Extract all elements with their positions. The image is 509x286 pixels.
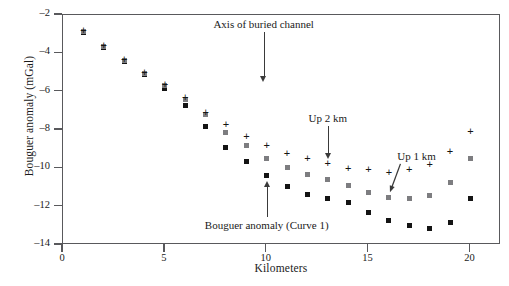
y-tick-label: –4 — [40, 45, 51, 56]
x-tick-mark — [265, 244, 266, 252]
y-tick-mark — [54, 205, 62, 206]
x-tick-mark — [469, 244, 470, 252]
y-tick-label: –6 — [40, 84, 51, 95]
x-tick-label: 20 — [457, 252, 481, 263]
x-tick-mark — [163, 244, 164, 252]
x-tick-label: 10 — [254, 252, 278, 263]
y-tick-mark — [54, 167, 62, 168]
y-tick-mark — [54, 90, 62, 91]
x-tick-mark — [61, 244, 62, 252]
y-tick-label: –8 — [40, 122, 51, 133]
arrow-shaft — [267, 187, 268, 217]
x-tick-label: 0 — [50, 252, 74, 263]
y-tick-mark — [54, 13, 62, 14]
y-tick-mark — [54, 52, 62, 53]
figure-container: Bouguer anomaly (mGal) Kilometers –2–4–6… — [0, 0, 509, 286]
x-tick-mark — [367, 244, 368, 252]
arrow-head — [264, 181, 270, 187]
annotation-label-bouguer-anomaly-curve-1: Bouguer anomaly (Curve 1) — [205, 219, 329, 231]
y-tick-label: –10 — [34, 160, 50, 171]
y-tick-label: –2 — [40, 7, 51, 18]
x-axis-title: Kilometers — [62, 262, 500, 274]
y-axis-title: Bouguer anomaly (mGal) — [23, 21, 35, 211]
y-tick-mark — [54, 128, 62, 129]
x-tick-label: 15 — [356, 252, 380, 263]
x-tick-label: 5 — [152, 252, 176, 263]
plot-area: Axis of buried channelUp 2 kmUp 1 kmBoug… — [62, 14, 500, 244]
y-tick-label: –12 — [34, 199, 50, 210]
y-tick-label: –14 — [34, 237, 50, 248]
annotation-arrow-up-1-km — [63, 15, 501, 245]
